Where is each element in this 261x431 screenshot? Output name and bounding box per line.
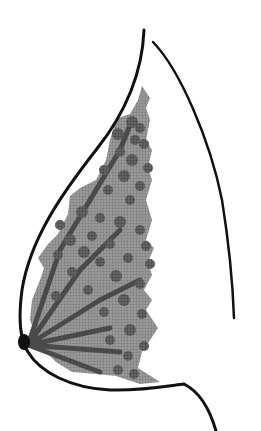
anatomy-illustration: Breast anatomy side profile illustration <box>0 0 261 431</box>
chest-wall-line <box>153 42 234 318</box>
breast-profile-drawing <box>0 0 261 431</box>
nipple <box>18 334 30 350</box>
